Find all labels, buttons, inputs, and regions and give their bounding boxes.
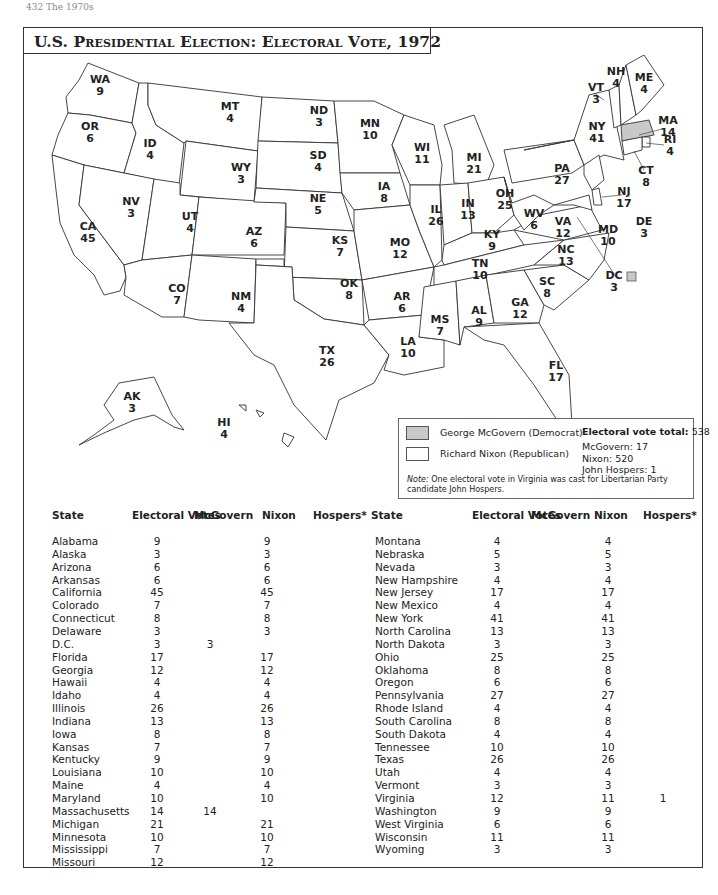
table-row: D.C.33 — [52, 638, 382, 651]
state-name: Hawaii — [52, 676, 87, 689]
table-row: Delaware33 — [52, 625, 382, 638]
label-ga: GA12 — [511, 296, 529, 321]
electoral-votes-value: 21 — [142, 818, 172, 831]
nixon-value: 3 — [593, 843, 623, 856]
nixon-value: 3 — [252, 625, 282, 638]
electoral-votes-value: 13 — [482, 625, 512, 638]
electoral-votes-value: 12 — [142, 664, 172, 677]
nixon-value: 8 — [593, 664, 623, 677]
nixon-value: 10 — [252, 792, 282, 805]
header-nixon: Nixon — [594, 510, 628, 521]
state-name: Tennessee — [375, 741, 430, 754]
electoral-votes-value: 4 — [142, 676, 172, 689]
table-row: Maryland1010 — [52, 792, 382, 805]
table-row: Utah44 — [371, 766, 701, 779]
state-name: North Dakota — [375, 638, 445, 651]
label-fl: FL17 — [548, 359, 563, 384]
nixon-value: 4 — [593, 599, 623, 612]
nixon-value: 7 — [252, 599, 282, 612]
table-row: Idaho44 — [52, 689, 382, 702]
state-ia — [340, 173, 410, 210]
state-name: Nevada — [375, 561, 415, 574]
table-row: California4545 — [52, 586, 382, 599]
table-row: Kansas77 — [52, 741, 382, 754]
electoral-votes-value: 9 — [142, 753, 172, 766]
total-label: Electoral vote total: 538 — [582, 426, 710, 437]
state-name: South Carolina — [375, 715, 452, 728]
electoral-votes-value: 26 — [482, 753, 512, 766]
label-md: MD10 — [598, 223, 618, 248]
nixon-value: 13 — [593, 625, 623, 638]
nixon-value: 8 — [593, 715, 623, 728]
state-name: Illinois — [52, 702, 85, 715]
table-row: Michigan2121 — [52, 818, 382, 831]
state-name: Iowa — [52, 728, 77, 741]
electoral-votes-value: 12 — [482, 792, 512, 805]
state-name: Colorado — [52, 599, 99, 612]
mcgovern-legend-label: George McGovern (Democrat) — [440, 427, 583, 438]
table-row: Maine44 — [52, 779, 382, 792]
state-name: Alabama — [52, 535, 98, 548]
state-name: Indiana — [52, 715, 91, 728]
nixon-value: 4 — [593, 535, 623, 548]
electoral-votes-value: 11 — [482, 831, 512, 844]
state-name: Mississippi — [52, 843, 108, 856]
nixon-value: 7 — [252, 843, 282, 856]
nixon-value: 6 — [252, 574, 282, 587]
electoral-votes-value: 3 — [482, 843, 512, 856]
nixon-value: 21 — [252, 818, 282, 831]
electoral-votes-value: 12 — [142, 856, 172, 869]
state-hi — [239, 405, 294, 447]
label-pa: PA27 — [554, 162, 570, 187]
table-row: Indiana1313 — [52, 715, 382, 728]
table-row: Vermont33 — [371, 779, 701, 792]
state-name: Kansas — [52, 741, 89, 754]
table-row: Alaska33 — [52, 548, 382, 561]
nixon-value: 3 — [252, 548, 282, 561]
table-row: Minnesota1010 — [52, 831, 382, 844]
electoral-votes-value: 4 — [482, 574, 512, 587]
header-hospers: Hospers* — [313, 510, 367, 521]
electoral-votes-value: 10 — [142, 766, 172, 779]
state-name: New York — [375, 612, 423, 625]
electoral-votes-value: 10 — [142, 792, 172, 805]
electoral-votes-value: 3 — [142, 625, 172, 638]
nixon-value: 17 — [593, 586, 623, 599]
table-row: New Jersey1717 — [371, 586, 701, 599]
title-box: U.S. Presidential Election: Electoral Vo… — [23, 27, 431, 54]
electoral-votes-value: 7 — [142, 843, 172, 856]
nixon-value: 11 — [593, 792, 623, 805]
state-name: Ohio — [375, 651, 399, 664]
nixon-value: 3 — [593, 561, 623, 574]
state-name: New Jersey — [375, 586, 433, 599]
electoral-votes-value: 3 — [482, 561, 512, 574]
state-ri — [642, 137, 650, 147]
table-row: Iowa88 — [52, 728, 382, 741]
state-co — [192, 197, 286, 255]
table-right: State Electoral Votes McGovern Nixon Hos… — [371, 510, 701, 860]
electoral-votes-value: 4 — [142, 779, 172, 792]
table-row: Nevada33 — [371, 561, 701, 574]
nixon-value: 5 — [593, 548, 623, 561]
total-hospers: John Hospers: 1 — [582, 464, 657, 476]
state-name: Massachusetts — [52, 805, 130, 818]
electoral-votes-value: 4 — [482, 599, 512, 612]
table-row: Colorado77 — [52, 599, 382, 612]
electoral-votes-value: 4 — [142, 689, 172, 702]
electoral-votes-value: 13 — [142, 715, 172, 728]
electoral-votes-value: 8 — [482, 715, 512, 728]
table-row: Wyoming33 — [371, 843, 701, 856]
nixon-value: 6 — [252, 561, 282, 574]
nixon-legend-label: Richard Nixon (Republican) — [440, 448, 569, 459]
label-nc: NC13 — [557, 243, 574, 268]
label-tn: TN10 — [472, 257, 489, 282]
table-row: Hawaii44 — [52, 676, 382, 689]
table-row: Oklahoma88 — [371, 664, 701, 677]
label-ct: CT8 — [638, 164, 654, 189]
table-row: Virginia12111 — [371, 792, 701, 805]
state-name: Vermont — [375, 779, 419, 792]
electoral-votes-value: 27 — [482, 689, 512, 702]
nixon-value: 8 — [252, 728, 282, 741]
nixon-value: 6 — [593, 676, 623, 689]
label-oh: OH25 — [496, 187, 515, 212]
